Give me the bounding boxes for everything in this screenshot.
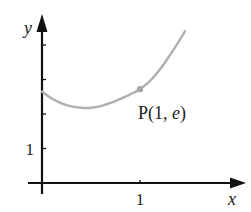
point-p-label: P(1, e) [138,103,186,124]
x-axis-label: x [227,189,236,209]
y-axis-label: y [22,18,32,38]
ticks [42,45,140,183]
x-axis-arrow [230,178,246,189]
chart: 11xyP(1, e) [0,0,251,212]
labels: 11xyP(1, e) [22,18,236,209]
x-tick-label: 1 [136,190,145,209]
y-axis-arrow [37,14,48,32]
y-tick-label: 1 [26,140,35,159]
series-curve [42,31,185,108]
series-group [42,31,185,108]
point-p-marker [137,86,143,92]
